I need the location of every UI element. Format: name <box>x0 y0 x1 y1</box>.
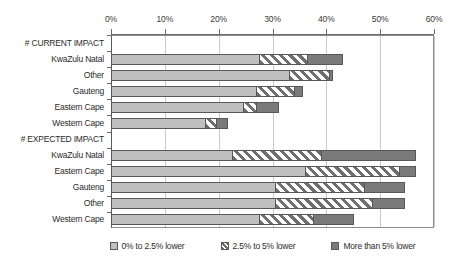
x-axis-tick <box>111 29 112 34</box>
bar-segment <box>372 198 405 209</box>
bar-segment <box>111 198 276 209</box>
x-axis-tick-label: 30% <box>264 14 281 24</box>
bar-segment <box>329 70 333 81</box>
legend-item-label: More than 5% lower <box>343 241 415 251</box>
y-axis-tick <box>107 212 111 213</box>
bar-segment <box>399 166 416 177</box>
y-axis-category-label: Other <box>0 70 104 80</box>
bar-segment <box>289 70 330 81</box>
bar-segment <box>111 182 276 193</box>
bar-segment <box>256 86 295 97</box>
y-axis-category-label: Gauteng <box>0 182 104 192</box>
chart-legend: 0% to 2.5% lower2.5% to 5% lowerMore tha… <box>90 236 435 256</box>
bar-segment <box>111 102 244 113</box>
bar-segment <box>111 54 260 65</box>
x-axis-tick <box>434 29 435 34</box>
legend-item[interactable]: More than 5% lower <box>331 241 415 251</box>
y-axis-tick <box>107 164 111 165</box>
bar-segment <box>321 150 416 161</box>
legend-swatch-dark-grey <box>331 242 339 250</box>
y-axis-tick <box>107 132 111 133</box>
bar-segment <box>216 118 228 129</box>
bar-segment <box>259 214 314 225</box>
x-axis-line <box>111 34 434 35</box>
x-axis-tick-label: 20% <box>210 14 227 24</box>
bar-chart: 0%10%20%30%40%50%60% # CURRENT IMPACTKwa… <box>0 0 459 266</box>
y-axis-category-label: Western Cape <box>0 118 104 128</box>
y-axis-category-label: # CURRENT IMPACT <box>0 38 104 48</box>
bar-segment <box>275 182 365 193</box>
bar-segment <box>111 214 260 225</box>
x-axis-tick-label: 50% <box>372 14 389 24</box>
x-axis-tick <box>165 29 166 34</box>
y-axis-category-label: Gauteng <box>0 86 104 96</box>
bar-segment <box>232 150 322 161</box>
bar-segment <box>313 214 354 225</box>
legend-swatch-hatched <box>221 242 229 250</box>
y-axis-category-label: Eastern Cape <box>0 166 104 176</box>
x-axis-tick-label: 0% <box>105 14 117 24</box>
y-axis-category-label: KwaZulu Natal <box>0 54 104 64</box>
y-axis-category-label: KwaZulu Natal <box>0 150 104 160</box>
bar-segment <box>243 102 257 113</box>
bar-segment <box>111 86 257 97</box>
gridline <box>434 36 435 227</box>
x-axis-tick-label: 40% <box>318 14 335 24</box>
x-axis-tick <box>380 29 381 34</box>
y-axis-tick <box>107 148 111 149</box>
bar-segment <box>294 86 303 97</box>
y-axis-tick <box>107 180 111 181</box>
x-axis-tick <box>326 29 327 34</box>
y-axis-tick <box>107 67 111 68</box>
bar-segment <box>259 54 308 65</box>
y-axis-category-label: Western Cape <box>0 214 104 224</box>
y-axis-category-label: Other <box>0 198 104 208</box>
y-axis-tick <box>107 196 111 197</box>
y-axis-category-label: Eastern Cape <box>0 102 104 112</box>
bar-segment <box>111 166 306 177</box>
y-axis-tick <box>107 99 111 100</box>
x-axis-tick-label: 10% <box>156 14 173 24</box>
legend-item-label: 2.5% to 5% lower <box>233 241 296 251</box>
y-axis-category-label: # EXPECTED IMPACT <box>0 134 104 144</box>
y-axis-tick <box>107 83 111 84</box>
bar-segment <box>275 198 373 209</box>
legend-item[interactable]: 0% to 2.5% lower <box>110 241 185 251</box>
x-axis-tick <box>273 29 274 34</box>
y-axis-tick <box>107 35 111 36</box>
bar-segment <box>307 54 343 65</box>
legend-item-label: 0% to 2.5% lower <box>122 241 185 251</box>
y-axis-tick <box>107 51 111 52</box>
x-axis-tick-label: 60% <box>426 14 443 24</box>
x-axis-tick <box>219 29 220 34</box>
bar-segment <box>111 70 290 81</box>
bar-segment <box>305 166 400 177</box>
y-axis-tick <box>107 115 111 116</box>
bar-segment <box>111 150 233 161</box>
bar-segment <box>256 102 279 113</box>
bar-segment <box>111 118 206 129</box>
bar-segment <box>364 182 405 193</box>
legend-item[interactable]: 2.5% to 5% lower <box>221 241 296 251</box>
legend-swatch-light-grey <box>110 242 118 250</box>
